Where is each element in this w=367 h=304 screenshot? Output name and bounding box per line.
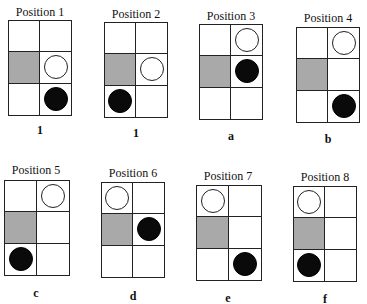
cell-r3-c1 — [105, 86, 136, 117]
cell-r3-c1 — [102, 246, 133, 277]
black-piece-icon — [137, 217, 161, 241]
black-piece-icon — [233, 252, 257, 276]
white-piece-icon — [105, 186, 129, 210]
cell-r3-c2 — [133, 246, 164, 277]
position-grid — [296, 27, 360, 123]
cell-r2-c2 — [40, 52, 71, 83]
cell-r2-c2 — [37, 212, 69, 243]
cell-r3-c1 — [197, 249, 229, 280]
position-grid — [104, 22, 168, 118]
cell-r1-c2 — [40, 21, 71, 52]
position-title: Position 7 — [188, 169, 268, 183]
cell-r3-c2 — [40, 84, 71, 115]
white-piece-icon — [41, 184, 65, 208]
shaded-cell — [197, 217, 229, 248]
white-piece-icon — [201, 189, 225, 213]
black-piece-icon — [297, 253, 321, 277]
position-title: Position 1 — [0, 5, 80, 19]
cell-r2-c2 — [325, 218, 356, 249]
white-piece-icon — [44, 55, 68, 79]
position-label: b — [288, 132, 367, 146]
cell-r3-c1 — [5, 244, 37, 275]
white-piece-icon — [235, 28, 259, 52]
black-piece-icon — [44, 87, 68, 111]
shaded-cell — [5, 212, 37, 243]
shaded-cell — [9, 52, 40, 83]
cell-r1-c1 — [197, 186, 229, 217]
cell-r1-c2 — [325, 187, 356, 218]
cell-r2-c2 — [231, 56, 262, 87]
white-piece-icon — [140, 57, 164, 81]
position-grid — [293, 186, 357, 282]
black-piece-icon — [235, 59, 259, 83]
cell-r1-c1 — [9, 21, 40, 52]
position-grid — [4, 180, 70, 276]
cell-r1-c2 — [328, 28, 359, 59]
shaded-cell — [105, 54, 136, 85]
position-label: a — [191, 129, 271, 143]
shaded-cell — [297, 59, 328, 90]
white-piece-icon — [297, 190, 321, 214]
cell-r3-c2 — [328, 91, 359, 122]
cell-r1-c1 — [297, 28, 328, 59]
cell-r3-c1 — [200, 88, 231, 119]
cell-r3-c2 — [136, 86, 167, 117]
cell-r3-c2 — [229, 249, 261, 280]
position-label: d — [93, 289, 173, 303]
position-grid — [199, 24, 263, 120]
cell-r1-c2 — [136, 23, 167, 54]
position-label: f — [285, 292, 365, 304]
position-label: 1 — [96, 126, 176, 140]
cell-r3-c1 — [9, 84, 40, 115]
cell-r1-c2 — [231, 25, 262, 56]
position-title: Position 6 — [93, 166, 173, 180]
position-title: Position 2 — [96, 7, 176, 21]
position-grid — [8, 20, 72, 116]
position-title: Position 8 — [285, 170, 365, 184]
cell-r2-c2 — [136, 54, 167, 85]
cell-r3-c2 — [37, 244, 69, 275]
position-title: Position 5 — [0, 163, 76, 177]
cell-r1-c1 — [5, 181, 37, 212]
cell-r1-c1 — [200, 25, 231, 56]
shaded-cell — [102, 214, 133, 245]
position-title: Position 3 — [191, 9, 271, 23]
cell-r2-c2 — [133, 214, 164, 245]
cell-r3-c2 — [231, 88, 262, 119]
cell-r1-c2 — [37, 181, 69, 212]
cell-r2-c2 — [229, 217, 261, 248]
position-label: c — [0, 286, 76, 300]
cell-r3-c1 — [294, 250, 325, 281]
cell-r3-c1 — [297, 91, 328, 122]
cell-r3-c2 — [325, 250, 356, 281]
white-piece-icon — [332, 31, 356, 55]
position-label: 1 — [0, 123, 80, 137]
position-grid — [101, 182, 165, 278]
position-title: Position 4 — [288, 11, 367, 25]
cell-r2-c2 — [328, 59, 359, 90]
position-grid — [196, 185, 262, 281]
cell-r1-c1 — [105, 23, 136, 54]
shaded-cell — [294, 218, 325, 249]
cell-r1-c1 — [102, 183, 133, 214]
black-piece-icon — [332, 94, 356, 118]
black-piece-icon — [108, 89, 132, 113]
shaded-cell — [200, 56, 231, 87]
cell-r1-c1 — [294, 187, 325, 218]
cell-r1-c2 — [133, 183, 164, 214]
cell-r1-c2 — [229, 186, 261, 217]
black-piece-icon — [9, 247, 33, 271]
position-label: e — [188, 291, 268, 304]
